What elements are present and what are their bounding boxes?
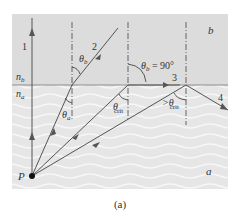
figure-caption: (a) — [0, 198, 240, 210]
ray-4-label: 4 — [218, 92, 223, 103]
ray-3-label: 3 — [172, 72, 177, 83]
source-point — [29, 173, 35, 179]
medium-a-label: a — [206, 165, 212, 177]
medium-b-region — [12, 14, 228, 85]
ray-1-label: 1 — [22, 41, 27, 52]
medium-b-label: b — [208, 24, 214, 36]
refraction-diagram: 1 2 3 4 b a nb na P θb θa θb = 90° θcrit… — [0, 0, 240, 216]
ray-2-label: 2 — [92, 41, 97, 52]
source-label: P — [17, 170, 25, 182]
